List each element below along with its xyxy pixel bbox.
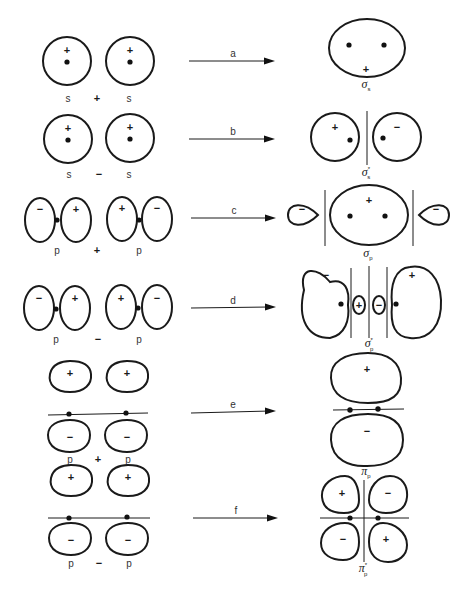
- operator: +: [94, 244, 100, 256]
- sign-plus: +: [119, 202, 125, 214]
- orbital-label-left: p: [68, 558, 74, 569]
- sign-plus: +: [68, 471, 74, 483]
- nodal-plane: [48, 413, 148, 415]
- nucleus-dot: [347, 213, 352, 218]
- sign-minus: −: [394, 121, 400, 133]
- sign-plus: +: [127, 44, 133, 56]
- arrowhead-icon: [264, 136, 275, 143]
- operator: +: [94, 92, 100, 104]
- sign-minus: −: [385, 487, 391, 499]
- sign-minus: −: [340, 533, 346, 545]
- row-c: − + + − p + p c − + − σp: [25, 185, 449, 261]
- mo-label-pi-star-p: π*p: [359, 561, 368, 577]
- orbital-label-right: p: [136, 334, 142, 345]
- row-b: + + s − s b + − σ*s: [44, 111, 421, 180]
- sign-plus: +: [124, 367, 130, 379]
- sign-plus: +: [118, 292, 124, 304]
- sign-plus: +: [72, 292, 78, 304]
- operator: −: [96, 168, 102, 180]
- arrowhead-icon: [265, 215, 276, 222]
- arrow-label: b: [230, 126, 236, 137]
- nucleus-dot: [375, 406, 380, 411]
- arrowhead-icon: [267, 515, 278, 522]
- nucleus-dot: [123, 410, 128, 415]
- nucleus-dot: [127, 59, 132, 64]
- nucleus-dot: [347, 137, 352, 142]
- mo-diagram: + + s + s a + σs + + s − s b + −: [0, 0, 474, 594]
- nucleus-dot: [338, 301, 343, 306]
- sign-minus: −: [36, 292, 42, 304]
- mo-label-sigma-star-p: σ*p: [365, 336, 374, 352]
- sign-minus: −: [154, 292, 160, 304]
- sign-minus: −: [67, 431, 73, 443]
- arrow-e: [191, 411, 270, 413]
- operator: −: [95, 333, 101, 345]
- sign-plus: +: [409, 269, 415, 281]
- arrow-label: c: [232, 205, 237, 216]
- row-a: + + s + s a + σs: [43, 19, 405, 104]
- sign-plus: +: [332, 121, 338, 133]
- nucleus-dot: [135, 305, 140, 310]
- sign-minus: −: [376, 299, 382, 311]
- arrowhead-icon: [264, 58, 275, 65]
- sign-minus: −: [154, 202, 160, 214]
- sign-plus: +: [65, 122, 71, 134]
- sign-plus: +: [356, 299, 362, 311]
- sign-plus: +: [125, 471, 131, 483]
- nucleus-dot: [124, 514, 129, 519]
- nucleus-dot: [127, 136, 132, 141]
- sign-plus: +: [64, 44, 70, 56]
- orbital-label-right: p: [125, 454, 131, 465]
- mo-label-sigma-star-s: σ*s: [362, 165, 371, 180]
- sign-minus: −: [323, 269, 329, 281]
- arrow-label: d: [230, 295, 236, 306]
- orbital-label-right: s: [127, 93, 132, 104]
- sign-plus: +: [67, 367, 73, 379]
- arrow-d: [191, 307, 270, 308]
- sign-plus: +: [363, 63, 369, 75]
- mo-label-sigma-s: σs: [362, 77, 371, 92]
- arrow-label: f: [235, 505, 238, 516]
- nucleus-dot: [393, 301, 398, 306]
- sign-minus: −: [433, 203, 439, 215]
- sign-plus: +: [339, 487, 345, 499]
- sign-plus: +: [383, 533, 389, 545]
- sign-minus: −: [124, 431, 130, 443]
- pi-p-lower-lobe: [331, 414, 403, 466]
- nucleus-dot: [136, 217, 141, 222]
- nucleus-dot: [346, 42, 351, 47]
- sign-plus: +: [364, 363, 370, 375]
- mo-label-sigma-p: σp: [363, 246, 373, 261]
- row-d: − + + − p − p d − + − + σ*p: [24, 266, 441, 352]
- sign-minus: −: [299, 203, 305, 215]
- arrowhead-icon: [265, 408, 276, 415]
- nucleus-dot: [347, 515, 352, 520]
- nucleus-dot: [347, 407, 352, 412]
- operator: +: [95, 453, 101, 465]
- nucleus-dot: [53, 306, 58, 311]
- row-e: + + − − p + p e + − πp: [48, 353, 404, 479]
- arrowhead-icon: [265, 304, 276, 311]
- sign-minus: −: [125, 534, 131, 546]
- orbital-label-left: p: [67, 454, 73, 465]
- orbital-label-right: p: [126, 558, 132, 569]
- nucleus-dot: [66, 515, 71, 520]
- sigma-star-p-outer-lobe-right: [392, 267, 441, 339]
- nucleus-dot: [375, 515, 380, 520]
- nucleus-dot: [381, 42, 386, 47]
- orbital-label-left: p: [54, 245, 60, 256]
- nucleus-dot: [64, 59, 69, 64]
- nucleus-dot: [65, 137, 70, 142]
- nucleus-dot: [382, 213, 387, 218]
- sign-minus: −: [364, 425, 370, 437]
- row-f: + + − − p − p f + − − + π*p: [48, 465, 409, 577]
- orbital-label-left: s: [66, 93, 71, 104]
- orbital-label-left: s: [67, 169, 72, 180]
- orbital-label-left: p: [53, 334, 59, 345]
- operator: −: [96, 557, 102, 569]
- nodal-plane: [333, 409, 404, 410]
- sign-plus: +: [73, 203, 79, 215]
- orbital-label-right: s: [127, 169, 132, 180]
- sign-plus: +: [127, 121, 133, 133]
- sign-plus: +: [366, 194, 372, 206]
